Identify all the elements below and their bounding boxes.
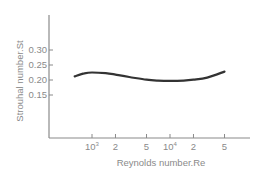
x-tick-label: 2 [113, 141, 118, 152]
x-ticks: 1032510425 [85, 134, 227, 152]
y-tick-label: 0.30 [29, 44, 48, 55]
x-tick-label: 5 [144, 141, 149, 152]
y-tick-label: 0.20 [29, 74, 48, 85]
strouhal-curve [75, 72, 225, 81]
x-tick-label: 104 [163, 141, 178, 152]
strouhal-reynolds-chart: 0.300.250.200.15 Strouhal number.St 1032… [0, 0, 269, 186]
y-axis: 0.300.250.200.15 Strouhal number.St [14, 15, 53, 138]
y-tick-label: 0.15 [29, 89, 48, 100]
x-axis-label: Reynolds number.Re [117, 157, 206, 168]
x-axis: 1032510425 Reynolds number.Re [49, 134, 250, 168]
y-tick-label: 0.25 [29, 59, 48, 70]
x-tick-label: 5 [222, 141, 227, 152]
x-tick-label: 103 [85, 141, 100, 152]
y-axis-label: Strouhal number.St [14, 40, 25, 122]
x-tick-label: 2 [191, 141, 196, 152]
